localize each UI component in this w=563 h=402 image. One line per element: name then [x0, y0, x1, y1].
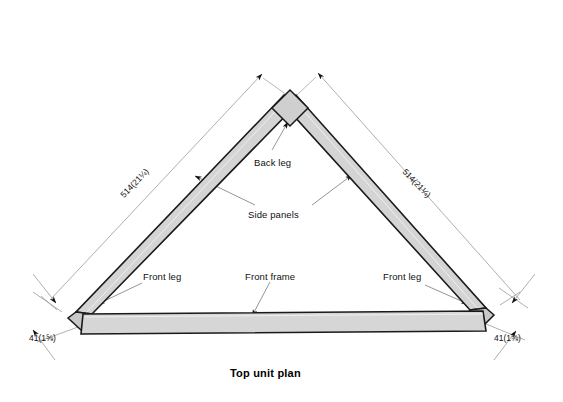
label-front-leg-left: Front leg	[143, 272, 181, 282]
dimension-line-right-leg-thickness	[486, 274, 535, 360]
drawing-title: Top unit plan	[230, 367, 301, 379]
top-unit-plan-drawing	[0, 0, 563, 402]
label-front-leg-right: Front leg	[383, 272, 421, 282]
label-side-panels: Side panels	[248, 210, 299, 220]
front-frame-bar	[81, 311, 486, 334]
dimension-text-left-leg-thickness: 41(1⅝)	[29, 334, 56, 343]
label-front-frame: Front frame	[245, 272, 295, 282]
dimension-text-right-leg-thickness: 41(1⅝)	[494, 334, 521, 343]
drawing-canvas: Back leg Side panels Front leg Front fra…	[0, 0, 563, 402]
label-back-leg: Back leg	[254, 158, 291, 168]
